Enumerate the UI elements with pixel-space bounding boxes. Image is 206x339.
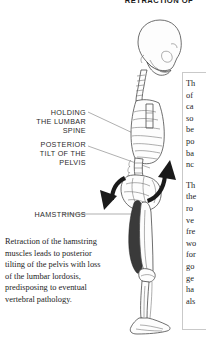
cervical-spine [136,70,147,101]
callout-label: HAMSTRINGS [35,210,86,219]
skull-lateral [138,20,181,75]
right-text-column: Th of ca so be po ba nc Th the ro ve fre… [182,72,206,330]
illustration-page: RETRACTION OF [0,0,206,339]
callout-holding-the-lumbar-spine: HOLDING THE LUMBAR SPINE [6,108,86,136]
rib-cage [131,100,164,164]
right-column-paragraph-2: Th the ro ve fre wo for go ge ha als [186,180,206,308]
foot [130,318,170,334]
knee [139,269,155,283]
figure-caption: Retraction of the hamstring muscles lead… [5,236,109,306]
callout-posterior-tilt-of-the-pelvis: POSTERIOR TILT OF THE PELVIS [6,140,86,168]
callout-label: POSTERIOR TILT OF THE PELVIS [40,140,86,167]
callout-hamstrings: HAMSTRINGS [6,210,86,219]
callout-label: HOLDING THE LUMBAR SPINE [36,108,86,135]
right-column-paragraph-1: Th of ca so be po ba nc [186,78,206,171]
tibia-fibula [141,281,152,319]
